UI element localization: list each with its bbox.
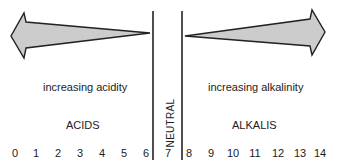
alkalis-label: ALKALIS [232,119,277,131]
ph-tick-10: 10 [227,147,239,159]
ph-tick-5: 5 [121,147,127,159]
neutral-label: NEUTRAL [165,99,176,148]
ph-tick-13: 13 [294,147,306,159]
ph-tick-3: 3 [77,147,83,159]
ph-tick-12: 12 [272,147,284,159]
acids-label: ACIDS [66,119,100,131]
ph-tick-1: 1 [33,147,39,159]
ph-tick-4: 4 [99,147,105,159]
ph-tick-7: 7 [165,147,171,159]
ph-tick-14: 14 [314,147,326,159]
ph-tick-6: 6 [143,147,149,159]
ph-tick-9: 9 [208,147,214,159]
left-arrow-acidity [11,13,150,58]
ph-tick-0: 0 [12,147,18,159]
ph-tick-11: 11 [249,147,260,159]
ph-tick-2: 2 [55,147,61,159]
ph-tick-8: 8 [186,147,192,159]
alkalinity-caption: increasing alkalinity [208,81,303,93]
acidity-caption: increasing acidity [43,81,127,93]
right-arrow-alkalinity [185,10,325,55]
